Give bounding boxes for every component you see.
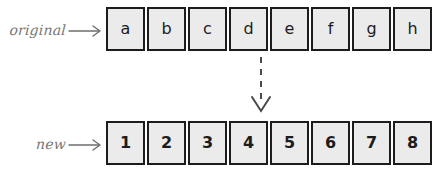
cell-original-2[interactable]: c bbox=[188, 7, 227, 51]
new-cell-row: 1 2 3 4 5 6 7 8 bbox=[106, 121, 432, 165]
cell-original-6[interactable]: g bbox=[352, 7, 391, 51]
cell-original-7[interactable]: h bbox=[393, 7, 432, 51]
cell-new-5[interactable]: 6 bbox=[311, 121, 350, 165]
cell-new-3[interactable]: 4 bbox=[229, 121, 268, 165]
right-arrow-icon-new bbox=[68, 137, 106, 153]
cell-new-7[interactable]: 8 bbox=[393, 121, 432, 165]
dashed-down-arrow-icon bbox=[243, 56, 279, 116]
row-label-new: new bbox=[7, 136, 66, 152]
array-remapping-diagram: original a b c d e f g h new 1 2 3 4 5 6… bbox=[0, 0, 434, 170]
cell-original-5[interactable]: f bbox=[311, 7, 350, 51]
cell-new-4[interactable]: 5 bbox=[270, 121, 309, 165]
cell-new-2[interactable]: 3 bbox=[188, 121, 227, 165]
cell-original-3[interactable]: d bbox=[229, 7, 268, 51]
cell-original-1[interactable]: b bbox=[147, 7, 186, 51]
cell-new-1[interactable]: 2 bbox=[147, 121, 186, 165]
cell-original-4[interactable]: e bbox=[270, 7, 309, 51]
row-label-original: original bbox=[7, 22, 66, 38]
original-cell-row: a b c d e f g h bbox=[106, 7, 432, 51]
cell-new-6[interactable]: 7 bbox=[352, 121, 391, 165]
right-arrow-icon-original bbox=[68, 23, 106, 39]
cell-new-0[interactable]: 1 bbox=[106, 121, 145, 165]
cell-original-0[interactable]: a bbox=[106, 7, 145, 51]
